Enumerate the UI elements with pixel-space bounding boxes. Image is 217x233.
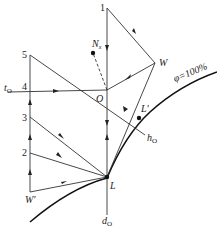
point-L-prime xyxy=(137,116,141,120)
label-3: 3 xyxy=(22,112,27,123)
label-L-prime: L' xyxy=(140,103,150,114)
label-1: 1 xyxy=(100,2,105,13)
point-N xyxy=(91,51,95,55)
line-2-L xyxy=(30,153,107,177)
label-L: L xyxy=(109,180,116,191)
line-1-W xyxy=(107,8,155,63)
saturation-curve xyxy=(30,72,217,222)
label-O: O xyxy=(96,93,103,104)
label-4: 4 xyxy=(22,81,27,92)
line-3-L xyxy=(30,117,107,177)
label-h-O: hO xyxy=(147,132,157,145)
label-d-O: dO xyxy=(102,215,112,228)
air-conditioning-process-diagram: 1 5 4 3 2 W' O W L L' Nx tO hO dO φ=100% xyxy=(0,0,217,233)
h-line xyxy=(30,55,145,135)
label-phi-100: φ=100% xyxy=(172,60,209,84)
label-5: 5 xyxy=(22,49,27,60)
label-2: 2 xyxy=(22,147,27,158)
label-W: W xyxy=(159,57,169,68)
label-t-O: tO xyxy=(4,82,12,95)
label-N: Nx xyxy=(91,38,102,50)
line-O-W xyxy=(107,63,155,90)
line-O-N xyxy=(93,53,107,90)
point-L xyxy=(105,175,109,179)
label-W-prime: W' xyxy=(25,194,36,205)
line-W-prime-L xyxy=(30,177,107,192)
line-W-L xyxy=(107,63,155,177)
